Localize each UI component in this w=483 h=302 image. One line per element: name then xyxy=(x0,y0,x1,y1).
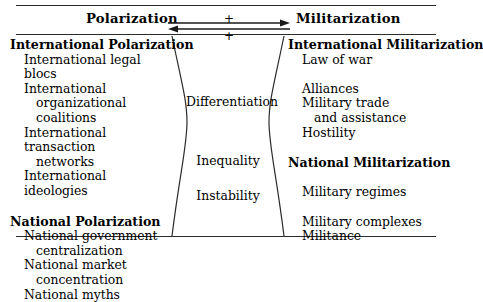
list-item: National market concentration xyxy=(10,258,170,287)
blank-line xyxy=(288,67,448,82)
group-heading: National Militarization xyxy=(288,156,448,171)
list-item: Military regimes xyxy=(288,185,448,200)
center-term-instability: Instability xyxy=(186,188,270,203)
item-line: International xyxy=(24,81,106,96)
list-item: Hostility xyxy=(288,126,448,141)
item-line: Military trade xyxy=(302,95,389,110)
right-column: International Militarization Law of war … xyxy=(288,38,448,244)
group-national-militarization: National Militarization Military regimes… xyxy=(288,156,448,244)
item-line: Hostility xyxy=(302,125,355,140)
group-spacer xyxy=(10,199,170,215)
list-item: Law of war xyxy=(288,53,448,68)
center-term-inequality: Inequality xyxy=(186,153,270,168)
item-line: National myths xyxy=(24,287,120,302)
item-line-cont: concentration xyxy=(24,273,170,288)
item-line-cont: networks xyxy=(24,155,170,170)
item-line: Military complexes xyxy=(302,214,422,229)
list-item: Military complexes xyxy=(288,215,448,230)
list-item: International transaction networks xyxy=(10,126,170,170)
item-line-cont: organizational coalitions xyxy=(24,96,170,125)
item-line: Law of war xyxy=(302,52,372,67)
list-item: International ideologies xyxy=(10,169,170,198)
group-heading: International Polarization xyxy=(10,38,170,53)
list-item: Military trade and assistance xyxy=(288,96,448,125)
item-line: National government xyxy=(24,228,158,243)
list-item: International legal blocs xyxy=(10,53,170,82)
left-curve xyxy=(172,36,187,236)
header-band: Polarization Militarization + + xyxy=(0,6,450,34)
center-term-differentiation: Differentiation xyxy=(186,94,270,109)
group-national-polarization: National Polarization National governmen… xyxy=(10,215,170,302)
list-item: National government centralization xyxy=(10,229,170,258)
header-label-polarization: Polarization xyxy=(86,11,178,26)
blank-line xyxy=(288,171,448,186)
group-spacer xyxy=(288,140,448,156)
group-heading: International Militarization xyxy=(288,38,448,53)
group-heading: National Polarization xyxy=(10,215,170,230)
item-line: International ideologies xyxy=(24,168,106,198)
list-item: International organizational coalitions xyxy=(10,82,170,126)
item-line: National market xyxy=(24,257,127,272)
list-item: National myths xyxy=(10,288,170,302)
list-item: Alliances xyxy=(288,82,448,97)
group-international-militarization: International Militarization Law of war … xyxy=(288,38,448,140)
item-line: Militance xyxy=(302,228,361,243)
item-line-cont: centralization xyxy=(24,244,170,259)
item-line: Alliances xyxy=(302,81,359,96)
blank-line xyxy=(288,200,448,215)
header-label-militarization: Militarization xyxy=(296,11,401,26)
group-international-polarization: International Polarization International… xyxy=(10,38,170,199)
plus-sign-top: + xyxy=(168,13,290,25)
item-line: International legal blocs xyxy=(24,52,141,82)
right-curve xyxy=(269,36,284,236)
item-line-cont: and assistance xyxy=(302,111,448,126)
list-item: Militance xyxy=(288,229,448,244)
item-line: International transaction xyxy=(24,125,106,155)
left-column: International Polarization International… xyxy=(10,38,170,302)
item-line: Military regimes xyxy=(302,184,406,199)
bidirectional-arrow-assembly: + + xyxy=(168,14,290,38)
